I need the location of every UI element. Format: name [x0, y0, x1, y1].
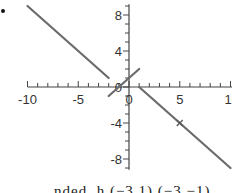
x-tick-label: -5: [72, 92, 84, 107]
chart-plot: -10-50510840-4-8: [0, 0, 232, 193]
caption-text: nded. h (−3,1) (−3,−1): [54, 183, 211, 193]
line-segment: [139, 87, 230, 168]
x-marker: [177, 120, 183, 126]
y-tick-label: 8: [115, 8, 122, 23]
x-tick-label: 5: [176, 92, 183, 107]
y-tick-label: -4: [110, 116, 122, 131]
x-tick-label: -10: [18, 92, 37, 107]
data-markers: [177, 120, 183, 126]
line-segment: [28, 6, 109, 78]
y-tick-label: 4: [115, 44, 122, 59]
y-tick-label: -8: [110, 152, 122, 167]
x-tick-label: 0: [125, 92, 132, 107]
line-segment: [109, 69, 139, 96]
x-tick-label: 10: [225, 92, 233, 107]
